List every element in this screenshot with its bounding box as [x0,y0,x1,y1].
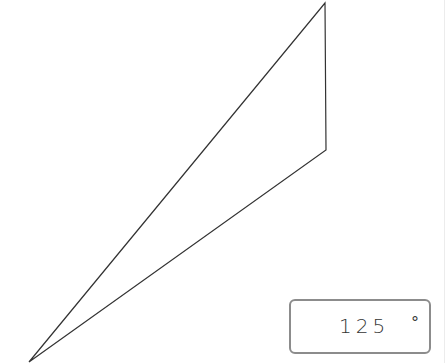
angle-input-box[interactable]: 125 ° [289,299,431,354]
angle-value[interactable]: 125 [339,314,389,338]
right-edge-divider [444,0,445,363]
triangle-shape [29,3,326,362]
degree-symbol: ° [411,313,419,332]
